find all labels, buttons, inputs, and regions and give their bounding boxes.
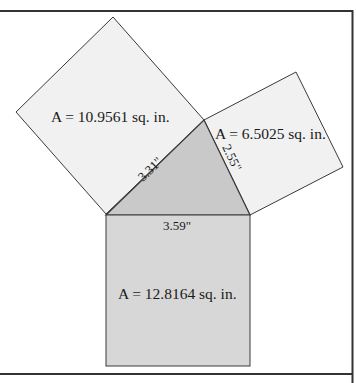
right-square-area-label: A = 6.5025 sq. in.: [215, 125, 326, 142]
bottom-square-area-label: A = 12.8164 sq. in.: [118, 285, 237, 302]
left-square-area-label: A = 10.9561 sq. in.: [51, 108, 170, 125]
bottom-side-length-label: 3.59": [163, 218, 191, 233]
pythagorean-diagram: A = 10.9561 sq. in. A = 6.5025 sq. in. A…: [0, 0, 356, 383]
